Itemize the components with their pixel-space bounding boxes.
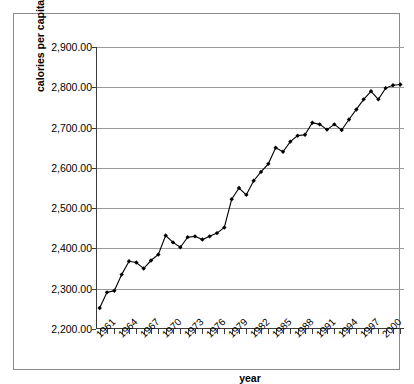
data-point-marker	[105, 290, 109, 294]
data-series-line	[96, 47, 404, 329]
data-point-marker	[207, 234, 211, 238]
data-point-marker	[193, 234, 197, 238]
data-point-marker	[391, 83, 395, 87]
data-point-marker	[127, 259, 131, 263]
data-point-marker	[119, 272, 123, 276]
data-point-marker	[273, 146, 277, 150]
data-point-marker	[398, 82, 402, 86]
plot-area	[96, 47, 404, 329]
x-axis-tick-labels: 1961196419671970197319761979198219851988…	[14, 332, 414, 376]
series-line	[100, 84, 401, 308]
data-point-marker	[200, 237, 204, 241]
data-point-marker	[112, 289, 116, 293]
chart-frame: calories per capita per day 2,900.002,80…	[13, 13, 400, 370]
data-point-marker	[97, 306, 101, 310]
x-axis-title: year	[96, 372, 404, 384]
